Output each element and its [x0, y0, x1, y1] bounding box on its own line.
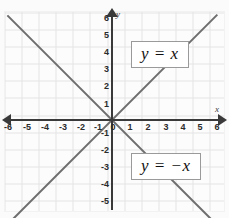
y-axis-label: y — [116, 9, 120, 19]
x-tick-label: 5 — [192, 122, 208, 132]
x-axis-label: x — [215, 104, 219, 114]
x-tick-label: -6 — [0, 122, 16, 132]
x-tick-label: 6 — [209, 122, 225, 132]
y-tick-label: -4 — [95, 179, 109, 189]
x-tick-label: -2 — [73, 122, 89, 132]
x-tick-label: 2 — [140, 122, 156, 132]
y-tick-label: -1 — [95, 128, 109, 138]
y-tick-label: -2 — [95, 145, 109, 155]
y-tick-label: 1 — [95, 99, 109, 109]
y-tick-label: -3 — [95, 162, 109, 172]
x-tick-label: 3 — [158, 122, 174, 132]
y-tick-label: 3 — [95, 64, 109, 74]
x-tick-label: 1 — [122, 122, 138, 132]
y-tick-label: 5 — [95, 30, 109, 40]
equation-label-y-equals-x: y = x — [131, 41, 189, 68]
y-tick-label: -5 — [95, 196, 109, 206]
x-tick-label: -3 — [55, 122, 71, 132]
x-tick-label: -5 — [19, 122, 35, 132]
cartesian-graph-figure: x y -6 -5 -4 -3 -2 -1 0 1 2 3 4 5 6 6 5 … — [0, 0, 229, 218]
y-axis — [111, 12, 113, 210]
x-tick-label: 4 — [175, 122, 191, 132]
x-tick-label: -4 — [37, 122, 53, 132]
x-axis — [4, 119, 223, 121]
y-tick-label: 6 — [95, 13, 109, 23]
equation-label-y-equals-negative-x: y = −x — [131, 153, 201, 180]
y-tick-label: 2 — [95, 81, 109, 91]
y-tick-label: 4 — [95, 47, 109, 57]
